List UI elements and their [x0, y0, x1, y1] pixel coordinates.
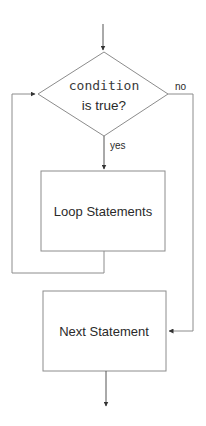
no-label: no: [175, 81, 187, 92]
next-statement-label: Next Statement: [59, 324, 149, 339]
condition-decision-node: condition is true?: [38, 52, 168, 136]
loop-statements-label: Loop Statements: [54, 204, 153, 219]
flowchart: condition is true? yes Loop Statements n…: [0, 0, 206, 426]
next-statement-node: Next Statement: [43, 291, 166, 371]
no-edge: [168, 94, 193, 331]
condition-label-line1: condition: [69, 78, 139, 93]
loop-statements-node: Loop Statements: [41, 171, 165, 251]
condition-label-line2: is true?: [82, 98, 126, 113]
yes-label: yes: [110, 140, 126, 151]
